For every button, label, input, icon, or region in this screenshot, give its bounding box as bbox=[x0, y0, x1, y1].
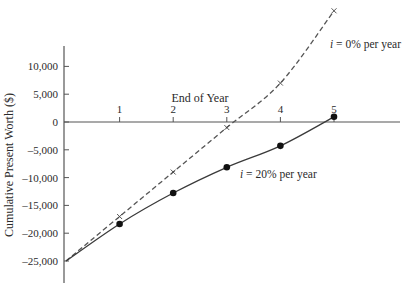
series-line-i20 bbox=[66, 117, 334, 261]
series-label-i0-text: = 0% per year bbox=[333, 38, 401, 51]
x-tick-label: 5 bbox=[331, 103, 337, 115]
series-label-i20-text: = 20% per year bbox=[243, 168, 317, 181]
data-point-dot bbox=[170, 190, 177, 197]
data-point-cross bbox=[171, 170, 176, 175]
y-tick-label: –15,000 bbox=[21, 199, 58, 211]
data-point-dot bbox=[224, 164, 231, 171]
y-tick-label: 0 bbox=[53, 116, 59, 128]
series-label-i0: i = 0% per year bbox=[330, 38, 401, 51]
series-label-i20: i = 20% per year bbox=[240, 168, 317, 181]
data-point-cross bbox=[117, 214, 122, 219]
series-line-i0 bbox=[66, 11, 334, 261]
y-tick-label: 5,000 bbox=[33, 88, 58, 100]
axes: 10,0005,0000–5,000–10,000–15,000–20,000–… bbox=[21, 46, 400, 283]
data-point-cross bbox=[224, 125, 229, 130]
y-tick-label: –5,000 bbox=[27, 144, 59, 156]
x-tick-label: 1 bbox=[117, 103, 123, 115]
y-tick-label: –10,000 bbox=[21, 172, 58, 184]
x-axis-label: End of Year bbox=[172, 91, 229, 105]
y-tick-label: 10,000 bbox=[28, 60, 59, 72]
series-layer bbox=[66, 8, 337, 261]
data-point-dot bbox=[277, 143, 284, 150]
data-point-dot bbox=[331, 114, 338, 121]
data-point-cross bbox=[278, 81, 283, 86]
data-point-dot bbox=[116, 221, 123, 228]
y-tick-label: –20,000 bbox=[21, 227, 58, 239]
x-tick-label: 4 bbox=[278, 103, 284, 115]
y-axis-label: Cumulative Present Worth ($) bbox=[2, 93, 16, 237]
y-tick-label: –25,000 bbox=[21, 255, 58, 267]
data-point-cross bbox=[332, 8, 337, 13]
chart: 10,0005,0000–5,000–10,000–15,000–20,000–… bbox=[0, 0, 410, 288]
